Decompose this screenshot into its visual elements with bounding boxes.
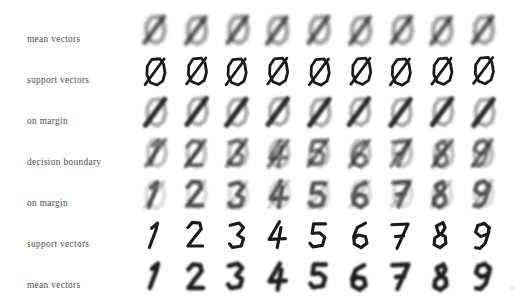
digit-cell-r3-c7	[424, 135, 461, 172]
digit-cell-r1-c7	[424, 53, 461, 90]
digit-cell-r6-c1	[178, 258, 215, 295]
digit-cell-r0-c1	[178, 12, 215, 49]
digit-cell-r2-c7	[424, 94, 461, 131]
row-label-column: mean vectors support vectors on margin d…	[0, 0, 132, 307]
digit-cell-r4-c0	[137, 176, 174, 213]
digit-cell-r1-c1	[178, 53, 215, 90]
digit-cell-r3-c4	[301, 135, 338, 172]
digit-cell-r4-c6	[383, 176, 420, 213]
digit-cell-r0-c6	[383, 12, 420, 49]
faint-artifact-mark	[511, 286, 515, 290]
row-label-mean-vectors-top: mean vectors	[27, 33, 132, 45]
digit-cell-r1-c2	[219, 53, 256, 90]
digit-cell-r5-c8	[465, 217, 502, 254]
digit-cell-r3-c3	[260, 135, 297, 172]
digit-cell-r4-c2	[219, 176, 256, 213]
digit-cell-r2-c3	[260, 94, 297, 131]
digit-cell-r5-c6	[383, 217, 420, 254]
digit-cell-r3-c2	[219, 135, 256, 172]
digit-cell-r4-c8	[465, 176, 502, 213]
digit-cell-r6-c5	[342, 258, 379, 295]
digit-cell-r0-c5	[342, 12, 379, 49]
digit-cell-r1-c6	[383, 53, 420, 90]
digit-cell-r5-c7	[424, 217, 461, 254]
digit-cell-r3-c5	[342, 135, 379, 172]
digit-cell-r5-c0	[137, 217, 174, 254]
digit-cell-r2-c8	[465, 94, 502, 131]
row-label-decision-boundary: decision boundary	[27, 156, 132, 168]
digit-cell-r2-c0	[137, 94, 174, 131]
digit-cell-r0-c2	[219, 12, 256, 49]
digit-cell-r5-c2	[219, 217, 256, 254]
digit-cell-r6-c6	[383, 258, 420, 295]
digit-cell-r2-c6	[383, 94, 420, 131]
digit-cell-r6-c0	[137, 258, 174, 295]
digit-cell-r2-c1	[178, 94, 215, 131]
digit-cell-r4-c3	[260, 176, 297, 213]
digit-cell-r0-c7	[424, 12, 461, 49]
digit-cell-r1-c5	[342, 53, 379, 90]
row-label-mean-vectors-bottom: mean vectors	[27, 279, 132, 291]
digit-cell-r1-c3	[260, 53, 297, 90]
digit-cell-r0-c8	[465, 12, 502, 49]
digit-cell-r5-c4	[301, 217, 338, 254]
digit-cell-r1-c0	[137, 53, 174, 90]
digit-cell-r3-c0	[137, 135, 174, 172]
digit-cell-r0-c4	[301, 12, 338, 49]
row-label-support-vectors-top: support vectors	[27, 74, 132, 86]
digit-cell-r5-c5	[342, 217, 379, 254]
digit-cell-r4-c4	[301, 176, 338, 213]
digit-cell-r4-c7	[424, 176, 461, 213]
digit-cell-r5-c3	[260, 217, 297, 254]
digit-cell-r1-c8	[465, 53, 502, 90]
digit-cell-r6-c7	[424, 258, 461, 295]
digit-cell-r2-c2	[219, 94, 256, 131]
digit-cell-r0-c3	[260, 12, 297, 49]
digit-cell-r3-c1	[178, 135, 215, 172]
digit-cell-r3-c6	[383, 135, 420, 172]
row-label-support-vectors-bottom: support vectors	[27, 238, 132, 250]
row-label-on-margin-top: on margin	[27, 115, 132, 127]
digit-cell-r6-c8	[465, 258, 502, 295]
digit-cell-r1-c4	[301, 53, 338, 90]
digit-cell-r4-c5	[342, 176, 379, 213]
digit-cell-r6-c2	[219, 258, 256, 295]
digit-cell-r6-c3	[260, 258, 297, 295]
digit-cell-r3-c8	[465, 135, 502, 172]
digit-cell-r2-c5	[342, 94, 379, 131]
digit-cell-r5-c1	[178, 217, 215, 254]
row-label-on-margin-bottom: on margin	[27, 197, 132, 209]
digit-cell-r6-c4	[301, 258, 338, 295]
digit-cell-r4-c1	[178, 176, 215, 213]
digit-cell-r0-c0	[137, 12, 174, 49]
figure-canvas: mean vectors support vectors on margin d…	[0, 0, 527, 307]
digit-cell-r2-c4	[301, 94, 338, 131]
